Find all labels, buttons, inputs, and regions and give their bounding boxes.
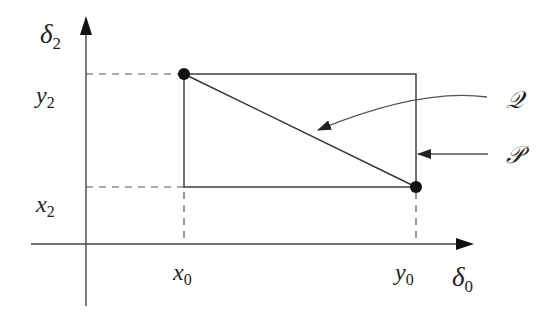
diagram-canvas: δ2 δ0 y2 x2 x0 y0 𝒬 𝒫 — [0, 0, 559, 320]
tick-label-x0: x0 — [172, 259, 192, 288]
diagonal-segment-q — [184, 74, 416, 187]
label-p: 𝒫 — [506, 141, 530, 169]
horizontal-axis-arrow-icon — [456, 238, 474, 250]
tick-label-y2: y2 — [34, 82, 55, 111]
projection-lines — [86, 74, 416, 244]
label-q: 𝒬 — [506, 86, 527, 114]
point-top-left — [178, 68, 190, 80]
tick-label-x2: x2 — [35, 191, 55, 220]
horizontal-axis-label: δ0 — [452, 262, 473, 296]
vertical-axis-arrow-icon — [80, 16, 92, 35]
point-bottom-right — [410, 181, 422, 193]
q-pointer-arrow — [318, 95, 487, 130]
tick-label-y0: y0 — [393, 259, 414, 288]
vertical-axis-label: δ2 — [40, 19, 61, 53]
axes — [31, 16, 474, 306]
